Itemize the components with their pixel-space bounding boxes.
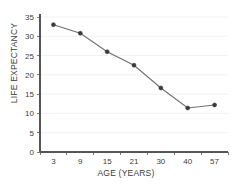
chart-svg: 05101520253035 391521304057 <box>0 0 238 188</box>
y-axis-title: LIFE EXPECTANCY <box>9 8 23 118</box>
plot-area: 05101520253035 391521304057 <box>0 0 238 188</box>
y-tick-label: 25 <box>25 52 34 61</box>
data-point <box>51 23 55 27</box>
y-tick-label: 20 <box>25 71 34 80</box>
y-tick-labels: 05101520253035 <box>25 13 34 157</box>
life-expectancy-chart: 05101520253035 391521304057 LIFE EXPECTA… <box>0 0 238 188</box>
gridlines <box>40 17 228 133</box>
x-tick-label: 57 <box>210 157 219 166</box>
x-tick-label: 40 <box>183 157 192 166</box>
y-tick-label: 5 <box>30 129 35 138</box>
x-tick-label: 9 <box>78 157 83 166</box>
data-point <box>105 50 109 54</box>
x-tick-labels: 391521304057 <box>51 157 219 166</box>
x-tick-label: 3 <box>51 157 56 166</box>
data-point <box>132 63 136 67</box>
y-tick-label: 0 <box>30 148 35 157</box>
data-point <box>213 103 217 107</box>
x-tick-label: 15 <box>103 157 112 166</box>
x-tick-label: 21 <box>130 157 139 166</box>
data-point <box>186 106 190 110</box>
y-tick-label: 35 <box>25 13 34 22</box>
data-point <box>78 31 82 35</box>
data-point <box>159 86 163 90</box>
y-tick-label: 10 <box>25 109 34 118</box>
y-tick-label: 15 <box>25 90 34 99</box>
x-tick-label: 30 <box>156 157 165 166</box>
y-tick-label: 30 <box>25 32 34 41</box>
x-axis-title: AGE (YEARS) <box>0 168 238 178</box>
